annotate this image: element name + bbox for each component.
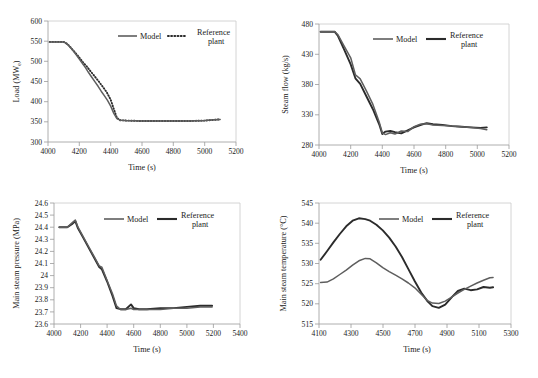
y-tick-label: 300 — [31, 138, 43, 147]
series-reference-plant — [321, 218, 494, 307]
steam-flow-chart-svg: 280 330 380 430 480 4000 4200 4400 4600 … — [269, 0, 538, 189]
x-tick-label: 5200 — [206, 329, 221, 338]
y-tick-label: 530 — [302, 259, 314, 268]
y-tick-label: 430 — [302, 50, 314, 59]
x-tick-label: 5400 — [232, 329, 247, 338]
x-tick-label: 4000 — [46, 329, 61, 338]
series-group — [59, 220, 212, 310]
y-axis-title-suffix: ) — [12, 60, 21, 63]
y-tick-labels: 300 350 400 450 500 550 600 — [31, 17, 43, 147]
y-tick-label: 350 — [31, 117, 43, 126]
y-axis-title: Main steam pressure (MPa) — [12, 218, 21, 309]
series-group — [321, 218, 494, 307]
x-tick-labels: 4000 4200 4400 4600 4800 5000 5200 — [311, 150, 516, 159]
x-tick-label: 5200 — [228, 147, 243, 156]
x-axis-title: Time (s) — [400, 166, 428, 175]
y-axis-title-main: Load (MW — [12, 66, 21, 103]
x-tick-label: 5100 — [471, 329, 486, 338]
legend-label-reference-plant-line2: plant — [467, 220, 484, 229]
x-tick-marks — [48, 142, 236, 146]
x-tick-label: 4700 — [407, 329, 422, 338]
series-model — [50, 42, 221, 121]
legend-label-reference-plant: Reference — [450, 31, 484, 40]
x-tick-labels: 4000 4200 4400 4600 4800 5000 5200 5400 — [46, 329, 247, 338]
x-axis-title: Time (s) — [128, 163, 156, 172]
chart-panel-load: 300 350 400 450 500 550 600 4000 4200 44… — [0, 0, 269, 189]
legend-label-model: Model — [140, 32, 162, 41]
x-tick-label: 4400 — [103, 147, 118, 156]
y-tick-label: 23.7 — [35, 308, 48, 317]
chart-panel-main-steam-temperature: 515 520 525 530 535 540 545 4100 4300 45… — [269, 189, 538, 378]
legend-label-reference-plant-line2: plant — [208, 37, 225, 46]
y-tick-label: 545 — [302, 199, 314, 208]
x-tick-label: 4600 — [126, 329, 141, 338]
x-tick-label: 5000 — [470, 150, 485, 159]
x-tick-marks — [319, 145, 509, 149]
y-tick-label: 23.6 — [35, 320, 48, 329]
y-tick-label: 23.9 — [35, 283, 48, 292]
x-tick-label: 4400 — [375, 150, 390, 159]
y-tick-label: 400 — [31, 97, 43, 106]
x-tick-label: 5000 — [197, 147, 212, 156]
legend-label-model: Model — [396, 35, 418, 44]
y-tick-label: 520 — [302, 299, 314, 308]
figure-grid: 300 350 400 450 500 550 600 4000 4200 44… — [0, 0, 538, 378]
x-tick-label: 4600 — [406, 150, 421, 159]
x-tick-label: 4300 — [343, 329, 358, 338]
svg-text:Load (MWe): Load (MWe) — [12, 60, 22, 102]
x-tick-labels: 4000 4200 4400 4600 4800 5000 5200 — [40, 147, 243, 156]
x-tick-label: 4000 — [40, 147, 55, 156]
y-tick-label: 380 — [302, 80, 314, 89]
legend-label-model: Model — [402, 215, 424, 224]
x-tick-label: 4200 — [73, 329, 88, 338]
y-axis-title: Steam flow (kg/s) — [281, 55, 290, 114]
x-tick-marks — [319, 324, 511, 328]
legend-label-reference-plant: Reference — [197, 28, 231, 37]
x-tick-label: 4200 — [72, 147, 87, 156]
y-axis-title: Main steam temperature (°C) — [279, 215, 288, 311]
legend-label-reference-plant-line2: plant — [192, 220, 209, 229]
y-tick-label: 500 — [31, 57, 43, 66]
x-axis-title: Time (s) — [403, 345, 431, 354]
y-tick-label: 24.1 — [35, 259, 48, 268]
y-tick-label: 280 — [302, 141, 314, 150]
chart-panel-main-steam-pressure: 23.6 23.7 23.8 23.9 24 24.1 24.2 24.3 24… — [0, 189, 269, 378]
x-tick-marks — [54, 324, 240, 328]
y-tick-label: 515 — [302, 320, 314, 329]
x-tick-label: 5000 — [179, 329, 194, 338]
x-tick-label: 4600 — [134, 147, 149, 156]
legend-label-reference-plant-line2: plant — [461, 40, 478, 49]
x-tick-label: 4500 — [375, 329, 390, 338]
x-tick-label: 4200 — [343, 150, 358, 159]
y-tick-labels: 280 330 380 430 480 — [302, 20, 314, 150]
legend-label-model: Model — [127, 215, 149, 224]
series-group — [50, 42, 221, 121]
y-tick-marks — [50, 203, 54, 324]
chart-legend: Model Reference plant — [118, 28, 231, 46]
y-tick-label: 540 — [302, 219, 314, 228]
y-tick-label: 550 — [31, 37, 43, 46]
legend-label-reference-plant: Reference — [181, 211, 215, 220]
y-tick-label: 24.6 — [35, 199, 48, 208]
x-tick-label: 4400 — [100, 329, 115, 338]
x-tick-label: 4000 — [311, 150, 326, 159]
y-tick-label: 24.3 — [35, 235, 48, 244]
y-tick-label: 450 — [31, 77, 43, 86]
y-tick-marks — [44, 21, 48, 142]
y-tick-marks — [315, 24, 319, 145]
y-tick-label: 600 — [31, 17, 43, 26]
x-tick-label: 5200 — [501, 150, 516, 159]
chart-legend: Model Reference plant — [373, 31, 484, 49]
load-chart-svg: 300 350 400 450 500 550 600 4000 4200 44… — [0, 0, 269, 189]
y-tick-label: 24 — [40, 271, 48, 280]
y-tick-label: 480 — [302, 20, 314, 29]
x-tick-label: 4800 — [438, 150, 453, 159]
y-tick-labels: 515 520 525 530 535 540 545 — [302, 199, 314, 329]
y-tick-label: 330 — [302, 110, 314, 119]
x-axis-title: Time (s) — [133, 345, 161, 354]
y-tick-label: 23.8 — [35, 295, 48, 304]
y-axis-title: Load (MWe) — [12, 60, 22, 102]
series-model — [59, 220, 212, 310]
x-tick-labels: 4100 4300 4500 4700 4900 5100 5300 — [311, 329, 518, 338]
x-tick-label: 4800 — [153, 329, 168, 338]
